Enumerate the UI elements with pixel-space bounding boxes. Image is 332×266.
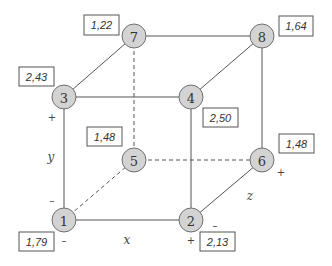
value-box-3: 2,43 — [19, 67, 54, 86]
node-4: 4 — [179, 85, 203, 109]
x-plus-sign: + — [187, 235, 195, 246]
value-box-5: 1,48 — [87, 127, 122, 146]
value-box-1: 1,79 — [19, 232, 54, 251]
svg-text:1,48: 1,48 — [94, 131, 116, 143]
svg-text:2,13: 2,13 — [206, 236, 229, 248]
value-box-6: 1,48 — [279, 134, 314, 153]
svg-text:4: 4 — [187, 91, 195, 106]
axis-label-y: y — [47, 150, 55, 164]
node-1: 1 — [52, 208, 76, 232]
node-7: 7 — [122, 24, 146, 48]
value-box-2: 2,13 — [200, 232, 235, 251]
node-5: 5 — [122, 148, 146, 172]
svg-text:1,48: 1,48 — [286, 138, 308, 150]
svg-text:1: 1 — [60, 214, 68, 229]
value-box-8: 1,64 — [279, 16, 313, 36]
y-minus-sign: – — [50, 195, 55, 206]
svg-text:7: 7 — [130, 30, 138, 45]
cube-diagram: 1 2 3 4 5 6 7 8 1,79 2,13 2,43 2,50 1,48… — [0, 0, 332, 266]
z-plus-sign: + — [277, 167, 285, 178]
y-plus-sign: + — [48, 112, 56, 123]
z-minus-sign: – — [213, 220, 218, 231]
value-box-7: 1,22 — [84, 15, 119, 35]
axis-label-x: x — [124, 233, 131, 247]
svg-text:1,22: 1,22 — [91, 19, 112, 31]
value-box-4: 2,50 — [203, 108, 238, 127]
edge-1-5 — [64, 160, 134, 220]
edge-3-7 — [64, 36, 134, 97]
svg-text:2: 2 — [187, 214, 195, 229]
node-6: 6 — [250, 148, 274, 172]
svg-text:5: 5 — [130, 154, 138, 169]
node-8: 8 — [250, 24, 274, 48]
svg-text:8: 8 — [258, 30, 266, 45]
node-3: 3 — [52, 85, 76, 109]
svg-text:2,43: 2,43 — [25, 71, 48, 83]
axis-label-z: z — [246, 189, 254, 203]
svg-text:3: 3 — [60, 91, 68, 106]
svg-text:1,64: 1,64 — [285, 20, 306, 32]
svg-text:1,79: 1,79 — [26, 236, 47, 248]
edge-4-8 — [191, 36, 262, 97]
x-minus-sign: – — [62, 235, 67, 246]
node-2: 2 — [179, 208, 203, 232]
svg-text:6: 6 — [258, 154, 266, 169]
svg-text:2,50: 2,50 — [209, 112, 232, 124]
